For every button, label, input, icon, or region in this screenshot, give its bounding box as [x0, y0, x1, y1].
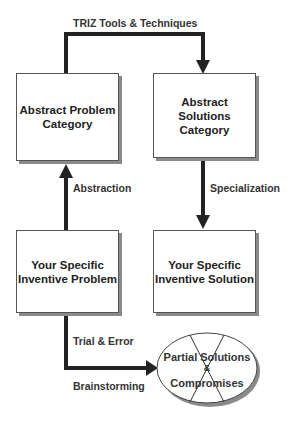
edge-label-brainstorming: Brainstorming: [73, 380, 145, 392]
box-specific-problem: Your Specific Inventive Problem: [16, 230, 119, 313]
box-text-line: Abstract Solutions: [154, 95, 255, 123]
edge-label-abstraction: Abstraction: [73, 182, 131, 194]
edge-label-trial-error: Trial & Error: [73, 335, 134, 347]
box-specific-solution: Your Specific Inventive Solution: [153, 230, 256, 313]
ellipse-text-line2: &: [162, 363, 252, 373]
box-text-line: Category: [20, 117, 116, 131]
box-text-line: Your Specific: [155, 258, 254, 272]
box-text-line: Inventive Problem: [18, 272, 117, 286]
box-text-line: Abstract Problem: [20, 103, 116, 117]
box-text-line: Your Specific: [18, 258, 117, 272]
edge-label-triz: TRIZ Tools & Techniques: [73, 17, 197, 29]
box-abstract-problem: Abstract Problem Category: [16, 73, 119, 161]
box-text-line: Category: [154, 123, 255, 137]
ellipse-text-line3: Compromises: [162, 377, 252, 389]
box-text-line: Inventive Solution: [155, 272, 254, 286]
box-abstract-solutions: Abstract Solutions Category: [153, 73, 256, 158]
ellipse-text-line1: Partial Solutions: [162, 351, 252, 363]
edge-label-specialization: Specialization: [210, 182, 280, 194]
